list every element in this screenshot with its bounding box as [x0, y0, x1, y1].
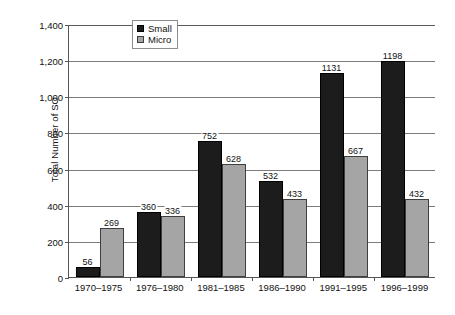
x-tick-label: 1970–1975: [68, 282, 129, 293]
bar-small[interactable]: 752: [198, 141, 222, 277]
y-tick-label: 1,400: [39, 20, 63, 31]
x-tick-label: 1981–1985: [190, 282, 251, 293]
bar-small[interactable]: 1198: [381, 61, 405, 277]
bar-group: 1131667: [313, 25, 374, 277]
bar-micro[interactable]: 433: [283, 199, 307, 277]
bar-value-label: 56: [81, 257, 93, 267]
bar-micro[interactable]: 432: [405, 199, 429, 277]
bar-value-label: 667: [347, 146, 364, 156]
bar-chart-figure: Total Number of SO 02004006008001,0001,2…: [0, 0, 455, 315]
legend-item-micro: Micro: [137, 34, 172, 45]
y-tick-label: 1,200: [39, 56, 63, 67]
x-tick-mark: [252, 277, 253, 281]
bar-value-label: 532: [262, 171, 279, 181]
x-tick-mark: [374, 277, 375, 281]
bar-value-label: 269: [103, 218, 120, 228]
gray-square-swatch-icon: [137, 36, 144, 43]
x-tick-label: 1976–1980: [129, 282, 190, 293]
bar-group: 56269: [69, 25, 130, 277]
y-tick-mark: [65, 278, 69, 279]
y-tick-label: 200: [47, 236, 63, 247]
bar-slot: 433: [283, 25, 307, 277]
bar-value-label: 1131: [321, 63, 342, 73]
y-tick-label: 800: [47, 128, 63, 139]
y-tick-label: 0: [58, 273, 63, 284]
bar-groups: 5626936033675262853243311316671198432: [69, 25, 435, 277]
y-tick-label: 600: [47, 164, 63, 175]
bar-value-label: 360: [140, 202, 157, 212]
bar-slot: 269: [100, 25, 124, 277]
legend-label-small: Small: [148, 23, 172, 34]
bar-value-label: 752: [201, 131, 218, 141]
bar-small[interactable]: 532: [259, 181, 283, 277]
bar-micro[interactable]: 269: [100, 228, 124, 277]
bar-small[interactable]: 1131: [320, 73, 344, 277]
bar-micro[interactable]: 667: [344, 156, 368, 277]
bar-slot: 1131: [320, 25, 344, 277]
bar-slot: 432: [405, 25, 429, 277]
bar-group: 360336: [130, 25, 191, 277]
x-tick-mark: [191, 277, 192, 281]
x-tick-label: 1991–1995: [313, 282, 374, 293]
bar-slot: 1198: [381, 25, 405, 277]
bar-slot: 360: [137, 25, 161, 277]
chart-legend: Small Micro: [132, 20, 178, 49]
bar-small[interactable]: 56: [76, 267, 100, 277]
bar-slot: 628: [222, 25, 246, 277]
bar-value-label: 1198: [382, 51, 403, 61]
bar-group: 752628: [191, 25, 252, 277]
bar-micro[interactable]: 336: [161, 216, 185, 277]
plot-area: 02004006008001,0001,2001,400 56269360336…: [68, 25, 435, 278]
bar-group: 532433: [252, 25, 313, 277]
x-tick-label: 1996–1999: [374, 282, 435, 293]
x-tick-mark: [130, 277, 131, 281]
bar-slot: 752: [198, 25, 222, 277]
y-tick-label: 1,000: [39, 92, 63, 103]
x-axis-tick-labels: 1970–19751976–19801981–19851986–19901991…: [68, 282, 435, 293]
legend-item-small: Small: [137, 23, 172, 34]
bar-value-label: 628: [225, 154, 242, 164]
bar-slot: 336: [161, 25, 185, 277]
bar-small[interactable]: 360: [137, 212, 161, 277]
bar-value-label: 336: [164, 206, 181, 216]
bar-slot: 667: [344, 25, 368, 277]
bar-value-label: 432: [408, 189, 425, 199]
bar-group: 1198432: [374, 25, 435, 277]
black-square-swatch-icon: [137, 25, 144, 32]
y-tick-label: 400: [47, 200, 63, 211]
bar-micro[interactable]: 628: [222, 164, 246, 277]
x-tick-mark: [313, 277, 314, 281]
bar-slot: 532: [259, 25, 283, 277]
bar-slot: 56: [76, 25, 100, 277]
x-tick-label: 1986–1990: [252, 282, 313, 293]
bar-value-label: 433: [286, 189, 303, 199]
legend-label-micro: Micro: [148, 34, 171, 45]
